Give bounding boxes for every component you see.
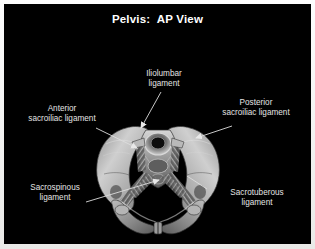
screenshot-root: Pelvis: AP View xyxy=(0,0,315,249)
label-posterior-sacroiliac-ligament: Posterior sacroiliac ligament xyxy=(204,98,308,118)
label-anterior-sacroiliac-line2: sacroiliac ligament xyxy=(10,114,114,124)
label-anterior-sacroiliac-ligament: Anterior sacroiliac ligament xyxy=(10,104,114,124)
label-sacrospinous-ligament: Sacrospinous ligament xyxy=(12,183,98,203)
label-posterior-sacroiliac-line1: Posterior xyxy=(240,98,273,107)
label-iliolumbar-line2: ligament xyxy=(126,79,202,89)
label-sacrospinous-line1: Sacrospinous xyxy=(30,183,80,192)
label-sacrotuberous-line1: Sacrotuberous xyxy=(230,188,283,197)
label-iliolumbar-line1: Iliolumbar xyxy=(146,69,182,78)
illustration-stage: Pelvis: AP View xyxy=(4,4,311,244)
label-iliolumbar-ligament: Iliolumbar ligament xyxy=(126,69,202,89)
label-sacrospinous-line2: ligament xyxy=(12,193,98,203)
label-sacrotuberous-ligament: Sacrotuberous ligament xyxy=(210,188,304,208)
label-anterior-sacroiliac-line1: Anterior xyxy=(48,104,77,113)
left-ischial-tuberosity xyxy=(115,205,129,215)
page-title: Pelvis: AP View xyxy=(4,13,311,25)
label-sacrotuberous-line2: ligament xyxy=(210,198,304,208)
pelvis-illustration xyxy=(92,122,224,240)
right-ischial-tuberosity xyxy=(187,205,201,215)
label-posterior-sacroiliac-line2: sacroiliac ligament xyxy=(204,108,308,118)
